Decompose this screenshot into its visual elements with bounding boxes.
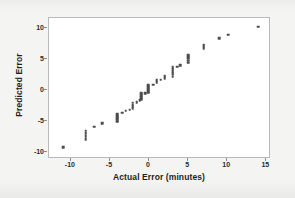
scatter-point xyxy=(202,43,205,46)
scatter-point xyxy=(152,83,155,86)
scatter-point xyxy=(257,25,260,28)
x-tick-label: 15 xyxy=(261,161,269,168)
scatter-point xyxy=(163,75,166,78)
scatter-point xyxy=(187,54,190,57)
scatter-point xyxy=(84,138,87,141)
y-tick-label: 10 xyxy=(36,23,44,30)
scatter-point xyxy=(156,79,159,82)
scatter-point xyxy=(84,129,87,132)
y-tick-mark xyxy=(44,89,47,90)
scatter-point xyxy=(116,113,119,116)
x-tick-mark xyxy=(187,158,188,161)
scatter-point xyxy=(227,33,230,36)
scatter-point xyxy=(93,126,96,129)
x-tick-label: 0 xyxy=(146,161,150,168)
plot-area xyxy=(48,17,270,158)
scatter-point xyxy=(62,146,65,149)
y-tick-label: -10 xyxy=(34,147,44,154)
x-tick-label: -10 xyxy=(65,161,75,168)
scatter-point xyxy=(84,132,87,135)
scatter-point xyxy=(101,122,104,125)
y-tick-mark xyxy=(44,151,47,152)
scatter-point xyxy=(179,64,182,67)
scatter-point xyxy=(84,135,87,138)
scatter-point xyxy=(124,109,127,112)
x-tick-mark xyxy=(265,158,266,161)
x-tick-label: 10 xyxy=(222,161,230,168)
scatter-point xyxy=(159,79,162,82)
x-tick-mark xyxy=(70,158,71,161)
y-tick-mark xyxy=(44,120,47,121)
y-tick-mark xyxy=(44,27,47,28)
y-axis-title: Predicted Error xyxy=(14,20,24,150)
x-axis-title: Actual Error (minutes) xyxy=(48,172,270,182)
x-tick-mark xyxy=(148,158,149,161)
x-tick-mark xyxy=(109,158,110,161)
scatter-point xyxy=(140,92,143,95)
x-tick-mark xyxy=(226,158,227,161)
y-tick-mark xyxy=(44,58,47,59)
scatter-point xyxy=(171,66,174,69)
x-tick-label: -5 xyxy=(106,161,112,168)
scatter-point xyxy=(147,84,150,87)
scatter-point xyxy=(218,37,221,40)
chart-screenshot: Predicted Error -10-50510 -10-5051015 Ac… xyxy=(0,0,295,198)
scatter-point xyxy=(131,101,134,104)
scatter-points-layer xyxy=(49,18,269,157)
y-axis-tick-labels: -10-50510 xyxy=(26,0,44,198)
x-tick-label: 5 xyxy=(185,161,189,168)
